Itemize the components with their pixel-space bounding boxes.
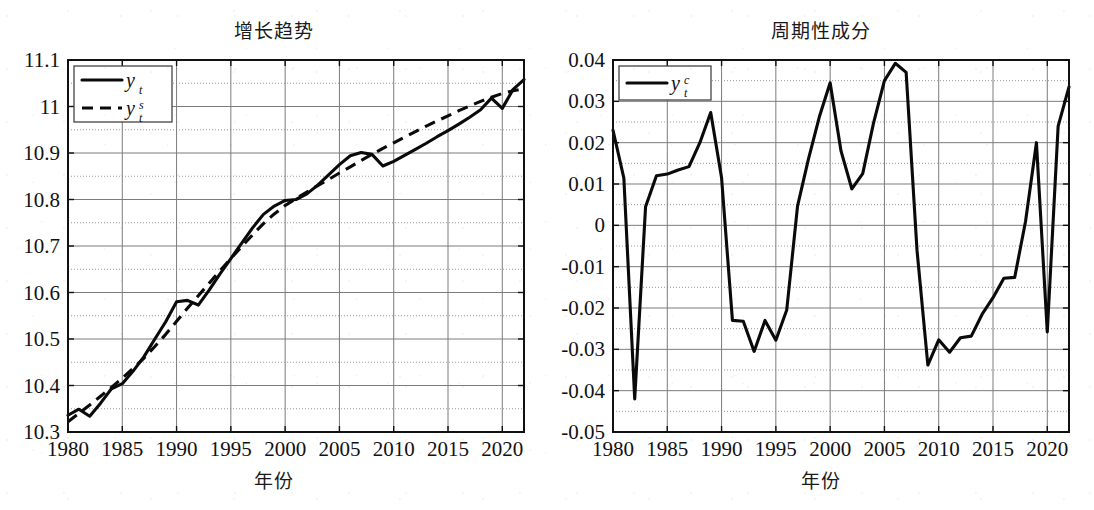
panel-cyclical-component: 周期性成分 -0.05-0.04-0.03-0.02-0.0100.010.02… <box>547 0 1094 510</box>
legend-label-superscript: c <box>684 73 690 87</box>
legend[interactable]: ytyts <box>74 66 172 125</box>
y-tick-label: -0.02 <box>561 296 605 320</box>
y-tick-label: 0.04 <box>568 48 605 72</box>
x-tick-label: 2005 <box>863 437 905 461</box>
x-tick-label: 2015 <box>427 437 469 461</box>
x-tick-label: 1985 <box>101 437 143 461</box>
legend-label: y <box>669 72 680 95</box>
x-tick-label: 2000 <box>809 437 851 461</box>
x-tick-label: 1980 <box>47 437 89 461</box>
gridlines <box>613 60 1069 432</box>
y-tick-label: 10.5 <box>23 327 60 351</box>
x-tick-label: 1995 <box>755 437 797 461</box>
data-series-group <box>68 80 524 422</box>
y-tick-label: 10.4 <box>23 374 60 398</box>
x-tick-label: 2020 <box>481 437 523 461</box>
y-tick-label: -0.01 <box>561 255 605 279</box>
y-tick-label: 0 <box>595 213 606 237</box>
series-solid <box>613 63 1069 399</box>
growth-trend-plot: 10.310.410.510.610.710.810.91111.1198019… <box>0 0 547 470</box>
x-tick-label: 2015 <box>972 437 1014 461</box>
figure-root: 增长趋势 10.310.410.510.610.710.810.91111.11… <box>0 0 1094 510</box>
legend-label: y <box>124 97 135 120</box>
legend-label-superscript: s <box>139 98 144 112</box>
y-tick-label: 11 <box>40 95 60 119</box>
x-tick-label: 2010 <box>373 437 415 461</box>
y-tick-label: 0.03 <box>568 89 605 113</box>
x-tick-label: 2005 <box>318 437 360 461</box>
cyclical-component-plot: -0.05-0.04-0.03-0.02-0.0100.010.020.030.… <box>547 0 1094 470</box>
data-series-group <box>613 63 1069 399</box>
x-tick-label: 1990 <box>156 437 198 461</box>
y-tick-label: 0.02 <box>568 131 605 155</box>
x-tick-label: 1985 <box>646 437 688 461</box>
x-tick-label: 2010 <box>918 437 960 461</box>
y-tick-label: -0.04 <box>561 379 605 403</box>
y-tick-label: 10.7 <box>23 234 60 258</box>
legend-label: y <box>124 69 135 92</box>
legend[interactable]: ytc <box>619 66 711 100</box>
x-tick-label: 1995 <box>210 437 252 461</box>
x-tick-label: 1980 <box>592 437 634 461</box>
y-tick-label: 10.6 <box>23 281 60 305</box>
series-dashed <box>68 89 524 422</box>
x-tick-label: 1990 <box>701 437 743 461</box>
x-axis-label-left: 年份 <box>0 466 547 493</box>
x-tick-label: 2000 <box>264 437 306 461</box>
y-tick-label: -0.03 <box>561 337 605 361</box>
x-tick-label: 2020 <box>1026 437 1068 461</box>
y-tick-label: 10.8 <box>23 188 60 212</box>
y-tick-label: 10.9 <box>23 141 60 165</box>
legend-box <box>74 66 172 122</box>
panel-growth-trend: 增长趋势 10.310.410.510.610.710.810.91111.11… <box>0 0 547 510</box>
y-tick-label: 11.1 <box>24 48 60 72</box>
y-tick-label: 0.01 <box>568 172 605 196</box>
x-axis-label-right: 年份 <box>547 466 1094 493</box>
